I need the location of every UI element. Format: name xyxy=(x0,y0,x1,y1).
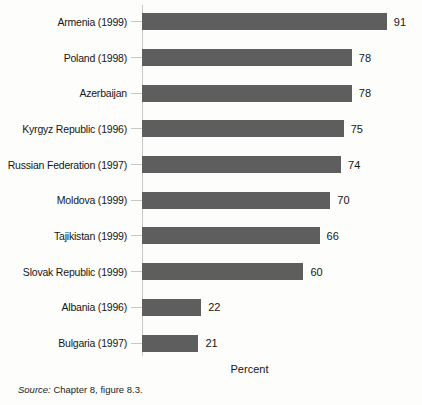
axis-tick xyxy=(131,93,142,94)
bar-track: 70 xyxy=(142,182,422,218)
axis-tick xyxy=(131,235,142,236)
value-label: 66 xyxy=(327,230,339,242)
bar-track: 74 xyxy=(142,147,422,183)
category-label: Slovak Republic (1999) xyxy=(0,266,127,278)
category-label: Bulgaria (1997) xyxy=(0,337,127,349)
bar-row: Tajikistan (1999) 66 xyxy=(0,218,422,254)
bar xyxy=(142,120,344,137)
category-label: Moldova (1999) xyxy=(0,194,127,206)
bar-row: Kyrgyz Republic (1996) 75 xyxy=(0,111,422,147)
value-label: 75 xyxy=(351,123,363,135)
bar-track: 66 xyxy=(142,218,422,254)
bar-row: Slovak Republic (1999) 60 xyxy=(0,254,422,290)
bar-track: 91 xyxy=(142,4,422,40)
axis-tick xyxy=(131,128,142,129)
axis-tick xyxy=(131,21,142,22)
axis-tick xyxy=(131,307,142,308)
value-label: 21 xyxy=(205,337,217,349)
value-label: 70 xyxy=(337,194,349,206)
bar xyxy=(142,49,352,66)
axis-tick xyxy=(131,343,142,344)
axis-tick xyxy=(131,57,142,58)
bar xyxy=(142,335,198,352)
bar xyxy=(142,13,387,30)
bar-chart-figure: Armenia (1999) 91 Poland (1998) 78 Azerb… xyxy=(0,0,422,405)
category-label: Russian Federation (1997) xyxy=(0,159,127,171)
axis-tick xyxy=(131,271,142,272)
category-label: Azerbaijan xyxy=(0,87,127,99)
bar-row: Bulgaria (1997) 21 xyxy=(0,325,422,361)
bar-row: Albania (1996) 22 xyxy=(0,290,422,326)
category-label: Tajikistan (1999) xyxy=(0,230,127,242)
bar-track: 78 xyxy=(142,75,422,111)
bar xyxy=(142,263,303,280)
category-label: Poland (1998) xyxy=(0,52,127,64)
bar-track: 75 xyxy=(142,111,422,147)
bar-rows: Armenia (1999) 91 Poland (1998) 78 Azerb… xyxy=(0,4,422,361)
source-label: Source: xyxy=(18,384,51,395)
value-label: 60 xyxy=(310,266,322,278)
category-label: Albania (1996) xyxy=(0,301,127,313)
bar-track: 22 xyxy=(142,290,422,326)
bar-row: Armenia (1999) 91 xyxy=(0,4,422,40)
bar-row: Russian Federation (1997) 74 xyxy=(0,147,422,183)
bar-track: 78 xyxy=(142,40,422,76)
category-label: Kyrgyz Republic (1996) xyxy=(0,123,127,135)
bar-track: 21 xyxy=(142,325,422,361)
bar xyxy=(142,156,341,173)
value-label: 78 xyxy=(359,52,371,64)
bar xyxy=(142,192,330,209)
axis-tick xyxy=(131,200,142,201)
source-note: Source: Chapter 8, figure 8.3. xyxy=(18,384,143,395)
x-axis-label: Percent xyxy=(142,363,357,375)
axis-tick xyxy=(131,164,142,165)
bar-row: Moldova (1999) 70 xyxy=(0,182,422,218)
value-label: 22 xyxy=(208,301,220,313)
bar xyxy=(142,227,320,244)
source-text: Chapter 8, figure 8.3. xyxy=(51,384,143,395)
bar-track: 60 xyxy=(142,254,422,290)
value-label: 78 xyxy=(359,87,371,99)
bar xyxy=(142,299,201,316)
value-label: 74 xyxy=(348,159,360,171)
bar xyxy=(142,85,352,102)
value-label: 91 xyxy=(394,16,406,28)
category-label: Armenia (1999) xyxy=(0,16,127,28)
bar-row: Azerbaijan 78 xyxy=(0,75,422,111)
bar-row: Poland (1998) 78 xyxy=(0,40,422,76)
